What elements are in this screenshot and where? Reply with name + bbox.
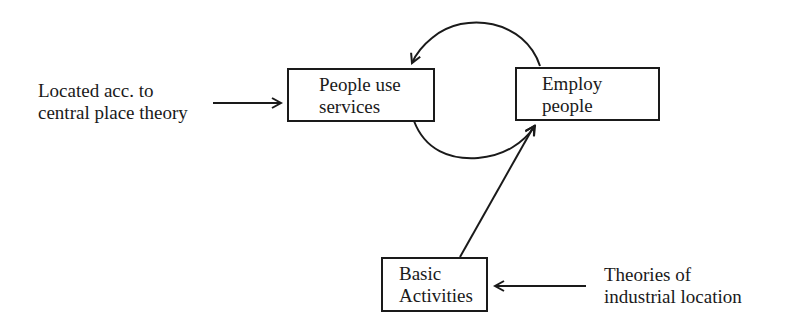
arc-employ-to-services bbox=[412, 22, 540, 66]
node-line-2: services bbox=[319, 96, 401, 118]
node-line-2: Activities bbox=[399, 285, 473, 307]
node-employ-people: Employ people bbox=[515, 67, 660, 121]
node-line-1: Employ bbox=[542, 73, 602, 95]
node-line-2: people bbox=[542, 95, 602, 117]
node-basic-activities: Basic Activities bbox=[381, 257, 488, 312]
node-text: People use services bbox=[319, 74, 401, 118]
arrow-basic-to-employ bbox=[460, 126, 534, 257]
input-line-1: Located acc. to bbox=[38, 80, 188, 102]
arc-services-to-employ bbox=[414, 121, 535, 158]
node-line-1: People use bbox=[319, 74, 401, 96]
input-line-2: industrial location bbox=[604, 286, 742, 308]
node-people-use-services: People use services bbox=[287, 68, 435, 122]
input-central-place-theory: Located acc. to central place theory bbox=[38, 80, 188, 124]
input-industrial-location: Theories of industrial location bbox=[604, 264, 742, 308]
input-line-2: central place theory bbox=[38, 102, 188, 124]
node-line-1: Basic bbox=[399, 263, 473, 285]
node-text: Basic Activities bbox=[399, 263, 473, 307]
input-line-1: Theories of bbox=[604, 264, 742, 286]
node-text: Employ people bbox=[542, 73, 602, 117]
